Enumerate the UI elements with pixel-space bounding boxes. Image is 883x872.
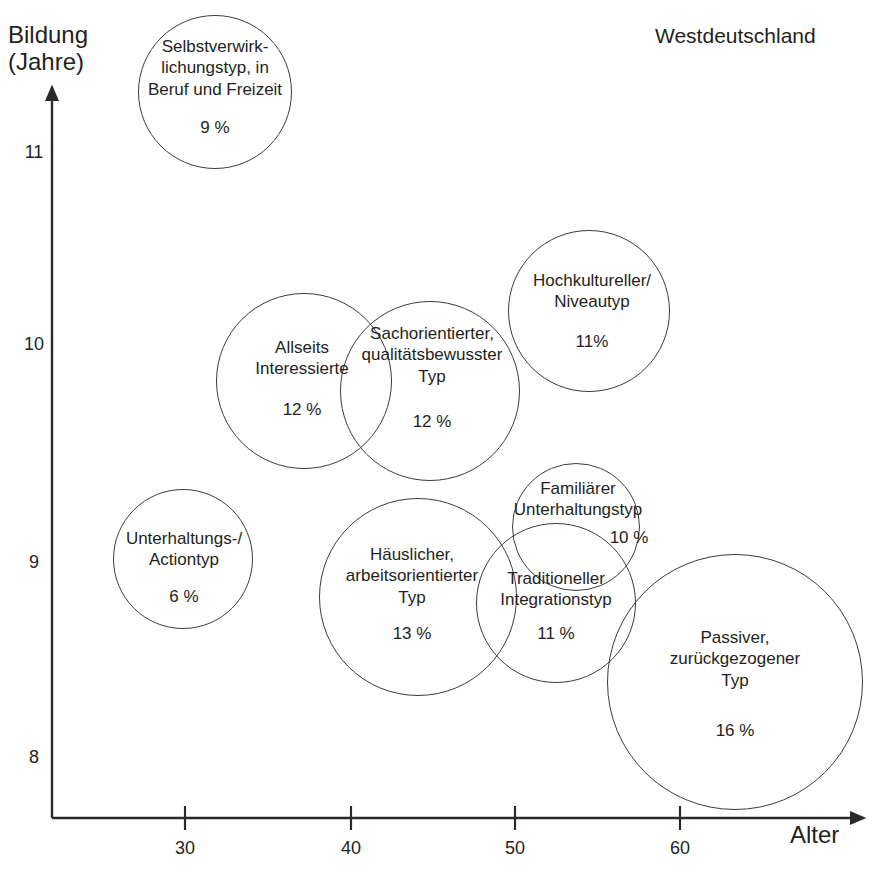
y-tick-label-8: 8 — [29, 747, 39, 768]
y-tick-label-10: 10 — [24, 334, 44, 355]
y-tick-label-11: 11 — [25, 142, 44, 163]
x-axis-title: Alter — [790, 822, 839, 849]
bubble-chart-figure: Bildung (Jahre) Alter Westdeutschland 11… — [0, 0, 883, 872]
bubble-sachorientierter-typ[interactable] — [340, 301, 520, 481]
bubble-passiver-zurueckgezogener-typ[interactable] — [607, 554, 863, 810]
bubble-hochkultureller-niveautyp[interactable] — [508, 230, 670, 392]
bubble-unterhaltungs-actiontyp[interactable] — [113, 489, 253, 629]
y-tick-label-9: 9 — [29, 552, 39, 573]
y-axis-title: Bildung (Jahre) — [8, 22, 88, 76]
figure-bottom-edge — [0, 866, 883, 872]
x-tick-label-40: 40 — [341, 838, 361, 859]
x-tick-label-30: 30 — [175, 838, 195, 859]
x-tick-label-50: 50 — [505, 838, 525, 859]
x-tick-label-60: 60 — [670, 838, 690, 859]
region-label: Westdeutschland — [655, 24, 816, 48]
bubble-selbstverwirklichungstyp[interactable] — [138, 15, 292, 169]
